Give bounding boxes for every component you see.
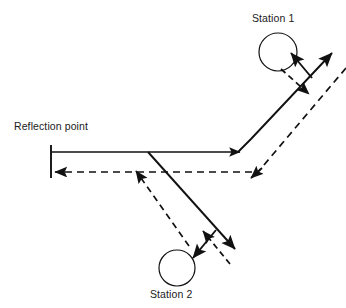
- reflection-point-label: Reflection point: [14, 120, 88, 132]
- solid-arrow-into-station2: [193, 230, 216, 258]
- dashed-arrow-from-station2: [203, 231, 230, 264]
- station2-label: Station 2: [150, 288, 192, 300]
- station2-circle-icon: [159, 250, 195, 286]
- dashed-ray-station2-to-junction: [136, 171, 189, 246]
- station1-label: Station 1: [252, 12, 294, 24]
- ray-path-diagram: Station 1 Station 2 Reflection point: [0, 0, 346, 308]
- station1-circle-icon: [259, 33, 297, 71]
- solid-arrow-into-station1: [291, 53, 312, 78]
- diagram-canvas: [0, 0, 346, 308]
- dashed-ray-bend-arrow: [251, 168, 262, 178]
- solid-ray-junction-to-lower-right: [148, 152, 235, 249]
- solid-ray-bend-to-upper-right: [238, 53, 332, 152]
